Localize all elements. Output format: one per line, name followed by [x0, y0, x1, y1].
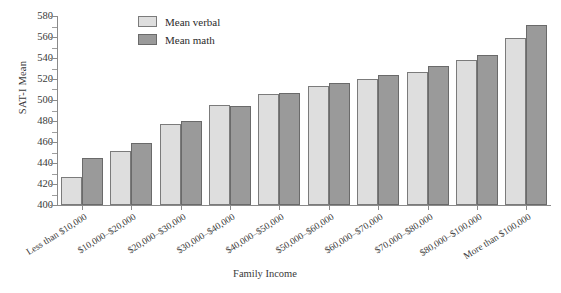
legend-swatch-icon	[138, 34, 157, 45]
x-tick-label: $70,000–$80,000	[344, 212, 434, 273]
x-tick-label: $10,000–$20,000	[48, 212, 138, 273]
x-tick-label: $50,000–$60,000	[245, 212, 335, 273]
legend-item[interactable]: Mean verbal	[138, 14, 220, 29]
legend-item[interactable]: Mean math	[138, 32, 220, 47]
x-tick-label: $40,000–$50,000	[196, 212, 286, 273]
legend-label: Mean math	[165, 34, 215, 46]
x-tick-label: Less than $10,000	[0, 212, 88, 273]
x-tick-label: $20,000–$30,000	[97, 212, 187, 273]
legend-label: Mean verbal	[165, 16, 220, 28]
x-tick-label: More than $100,000	[443, 212, 533, 273]
x-axis-category-labels: Less than $10,000$10,000–$20,000$20,000–…	[0, 0, 561, 293]
chart-legend: Mean verbalMean math	[138, 14, 220, 50]
x-tick-label: $30,000–$40,000	[146, 212, 236, 273]
x-tick-label: $80,000–$100,000	[393, 212, 483, 273]
legend-swatch-icon	[138, 16, 157, 27]
x-tick-label: $60,000–$70,000	[295, 212, 385, 273]
x-axis-title: Family Income	[0, 268, 530, 279]
sat-income-bar-chart: SAT-I Mean 40042044046048050052054056058…	[0, 0, 561, 293]
